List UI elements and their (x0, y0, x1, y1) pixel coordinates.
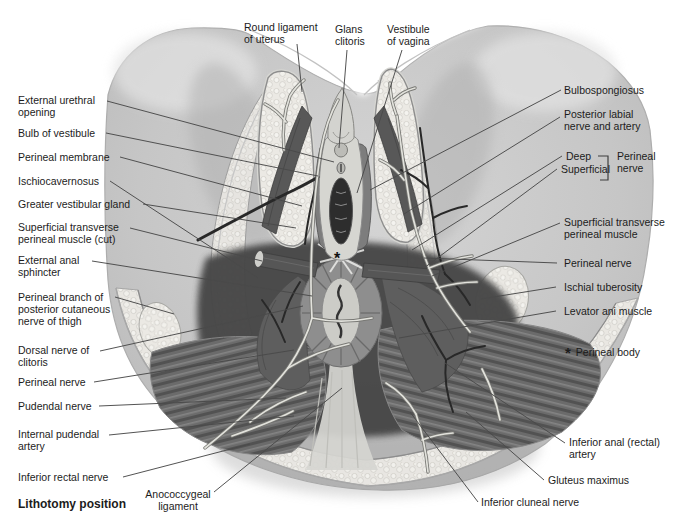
label-dorsal-nerve-of-clitoris: Dorsal nerve ofclitoris (18, 345, 89, 369)
label-glans-clitoris: Glansclitoris (335, 24, 365, 48)
label-external-anal-sphincter: External analsphincter (18, 255, 79, 279)
label-lithotomy-position-caption: Lithotomy position (18, 499, 126, 511)
figure-canvas: * Round ligamentof uterusGlansclitorisVe… (0, 0, 683, 523)
perineal-body-asterisk: * (565, 344, 571, 361)
label-perineal-nerve-deep: Deep (566, 151, 591, 163)
label-inferior-rectal-nerve: Inferior rectal nerve (18, 472, 108, 484)
label-greater-vestibular-gland: Greater vestibular gland (18, 199, 130, 211)
label-ischial-tuberosity: Ischial tuberosity (564, 282, 642, 294)
label-posterior-labial-nerve-and-artery: Posterior labialnerve and artery (564, 109, 640, 133)
label-bulb-of-vestibule: Bulb of vestibule (18, 128, 95, 140)
label-perineal-nerve-superficial: Superficial (561, 164, 610, 176)
label-external-urethral-opening: External urethralopening (18, 95, 95, 119)
label-perineal-nerve-right: Perineal nerve (564, 258, 632, 270)
label-pudendal-nerve: Pudendal nerve (18, 401, 92, 413)
label-bulbospongiosus: Bulbospongiosus (564, 85, 644, 97)
label-perineal-nerve-bracket-label: Perinealnerve (617, 151, 656, 175)
label-layer: Round ligamentof uterusGlansclitorisVest… (0, 0, 683, 523)
label-inferior-anal-rectal-artery: Inferior anal (rectal)artery (569, 437, 660, 461)
label-round-ligament-of-uterus: Round ligamentof uterus (244, 22, 318, 46)
label-perineal-branch-posterior-cutaneous-nerve-of-thigh: Perineal branch ofposterior cutaneousner… (18, 292, 110, 327)
label-levator-ani-muscle: Levator ani muscle (564, 306, 652, 318)
label-superficial-transverse-perineal-muscle: Superficial transverseperineal muscle (564, 217, 665, 241)
label-perineal-membrane: Perineal membrane (18, 152, 110, 164)
label-vestibule-of-vagina: Vestibuleof vagina (387, 24, 430, 48)
label-ischiocavernosus: Ischiocavernosus (18, 176, 99, 188)
label-inferior-cluneal-nerve: Inferior cluneal nerve (481, 497, 579, 509)
label-perineal-nerve-left: Perineal nerve (18, 377, 86, 389)
label-superficial-transverse-perineal-muscle-cut: Superficial transverseperineal muscle (c… (18, 222, 119, 246)
label-perineal-body-legend: *Perineal body (565, 347, 640, 359)
label-gluteus-maximus: Gluteus maximus (548, 475, 629, 487)
label-anococcygeal-ligament: Anococcygealligament (136, 489, 220, 513)
label-internal-pudendal-artery: Internal pudendalartery (18, 429, 99, 453)
